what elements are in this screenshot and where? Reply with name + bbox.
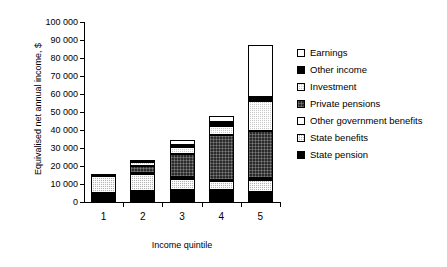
y-axis-tick-label: 50 000 — [50, 108, 78, 117]
bar-segment-state-benefits — [91, 176, 116, 193]
bar-segment-private-pensions — [209, 135, 234, 179]
y-axis-tick — [80, 76, 84, 77]
legend-item: State pension — [297, 146, 447, 163]
legend-item: State benefits — [297, 129, 447, 146]
bar-segment-other-income — [209, 122, 234, 126]
y-axis-tick-label: 0 — [73, 198, 78, 207]
legend-item: Private pensions — [297, 95, 447, 112]
legend-item-label: Other income — [310, 64, 367, 75]
bar-segment-other-income — [248, 97, 273, 102]
legend-swatch-icon — [297, 49, 305, 57]
bar-segment-earnings — [248, 45, 273, 96]
legend-item: Investment — [297, 78, 447, 95]
y-axis-tick — [80, 58, 84, 59]
legend-swatch-icon — [297, 100, 305, 108]
x-axis-tick-label: 3 — [179, 211, 185, 222]
bar-segment-state-pension — [209, 190, 234, 202]
y-axis-tick-label: 20 000 — [50, 162, 78, 171]
x-axis-tick — [241, 203, 242, 207]
x-axis-tick-label: 1 — [101, 211, 107, 222]
y-axis-tick — [80, 40, 84, 41]
y-axis-tick-label: 90 000 — [50, 36, 78, 45]
y-axis-title: Equivalised net annual income, $ — [33, 9, 43, 209]
y-axis-tick — [80, 184, 84, 185]
bar-segment-state-pension — [91, 193, 116, 202]
bar-segment-other-income — [170, 145, 195, 147]
bar-segment-other-gov-benefits — [91, 174, 116, 176]
x-axis-line — [84, 202, 281, 203]
bar-column — [91, 175, 116, 202]
bar-segment-investment — [170, 147, 195, 154]
bar-segment-earnings — [130, 160, 155, 162]
bar-segment-private-pensions — [248, 131, 273, 178]
legend-item-label: State benefits — [310, 132, 368, 143]
bar-column — [248, 45, 273, 202]
bar-segment-investment — [248, 101, 273, 131]
legend-item-label: Investment — [310, 81, 356, 92]
y-axis-tick — [80, 130, 84, 131]
bar-segment-earnings — [209, 116, 234, 122]
bar-segment-other-gov-benefits — [248, 178, 273, 181]
y-axis-tick-label: 80 000 — [50, 54, 78, 63]
stacked-bar-chart: Equivalised net annual income, $ 010 000… — [0, 0, 447, 267]
legend-item-label: Other government benefits — [310, 115, 422, 126]
legend-item-label: State pension — [310, 149, 368, 160]
legend-item: Other government benefits — [297, 112, 447, 129]
y-axis-tick-label: 100 000 — [45, 18, 78, 27]
y-axis-tick-label: 60 000 — [50, 90, 78, 99]
bar-segment-other-gov-benefits — [170, 177, 195, 179]
legend-item: Other income — [297, 61, 447, 78]
y-axis-tick — [80, 112, 84, 113]
bar-column — [170, 140, 195, 202]
plot-area: 010 00020 00030 00040 00050 00060 00070 … — [84, 22, 280, 202]
y-axis-tick — [80, 166, 84, 167]
bar-segment-earnings — [170, 140, 195, 145]
y-axis-line — [84, 22, 85, 203]
bar-segment-state-pension — [130, 191, 155, 202]
bar-segment-state-pension — [170, 190, 195, 202]
bar-column — [209, 116, 234, 202]
bar-segment-private-pensions — [170, 154, 195, 177]
bar-segment-state-pension — [248, 192, 273, 202]
bar-segment-other-gov-benefits — [209, 179, 234, 181]
y-axis-tick-label: 40 000 — [50, 126, 78, 135]
legend-item: Earnings — [297, 44, 447, 61]
legend-swatch-icon — [297, 151, 305, 159]
x-axis-tick — [123, 203, 124, 207]
x-axis-title: Income quintile — [84, 240, 280, 250]
legend-swatch-icon — [297, 134, 305, 142]
x-axis-tick — [162, 203, 163, 207]
legend-swatch-icon — [297, 83, 305, 91]
y-axis-tick — [80, 148, 84, 149]
legend-item-label: Private pensions — [310, 98, 380, 109]
y-axis-tick — [80, 94, 84, 95]
legend-swatch-icon — [297, 117, 305, 125]
bar-segment-investment — [130, 162, 155, 166]
x-axis-tick — [202, 203, 203, 207]
bar-segment-state-benefits — [170, 179, 195, 191]
bar-segment-state-benefits — [248, 180, 273, 192]
legend-item-label: Earnings — [310, 47, 348, 58]
bar-segment-state-benefits — [209, 181, 234, 190]
y-axis-tick-label: 70 000 — [50, 72, 78, 81]
x-axis-tick-label: 5 — [258, 211, 264, 222]
y-axis-tick-label: 30 000 — [50, 144, 78, 153]
x-axis-tick — [280, 203, 281, 207]
bar-segment-private-pensions — [130, 166, 155, 173]
bar-column — [130, 161, 155, 202]
y-axis-tick-label: 10 000 — [50, 180, 78, 189]
bar-segment-investment — [209, 126, 234, 136]
y-axis-tick — [80, 22, 84, 23]
chart-legend: EarningsOther incomeInvestmentPrivate pe… — [297, 44, 447, 163]
x-axis-tick-label: 4 — [218, 211, 224, 222]
legend-swatch-icon — [297, 66, 305, 74]
x-axis-tick-label: 2 — [140, 211, 146, 222]
bar-segment-state-benefits — [130, 174, 155, 191]
y-axis-tick — [80, 202, 84, 203]
